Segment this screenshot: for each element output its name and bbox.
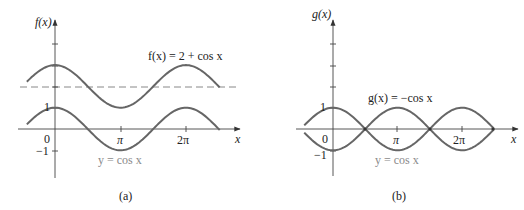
y-axis-label-a: f(x) xyxy=(35,15,52,29)
curve-label-cos-b: y = cos x xyxy=(375,153,419,167)
curve-f-2-plus-cos xyxy=(27,65,220,108)
tick-label-2pi-a: 2π xyxy=(177,133,189,147)
tick-label-neg1-a: −1 xyxy=(36,144,49,158)
figure-canvas: f(x) x f(x) = 2 + cos x y = cos x 1 −1 0… xyxy=(0,0,524,210)
x-axis-label-a: x xyxy=(234,132,241,146)
tick-label-pi-b: π xyxy=(393,133,400,147)
tick-label-2pi-b: 2π xyxy=(453,133,465,147)
tick-label-1-a: 1 xyxy=(44,100,50,114)
panel-a: f(x) x f(x) = 2 + cos x y = cos x 1 −1 0… xyxy=(18,15,241,203)
panel-b: g(x) x g(x) = −cos x y = cos x 1 −1 0 π … xyxy=(296,7,518,203)
tick-label-neg1-b: −1 xyxy=(314,148,327,162)
tick-label-0-b: 0 xyxy=(322,132,328,146)
curve-label-f: f(x) = 2 + cos x xyxy=(148,49,223,63)
caption-b: (b) xyxy=(392,189,406,203)
curve-label-g: g(x) = −cos x xyxy=(368,91,433,105)
tick-label-0-a: 0 xyxy=(44,132,50,146)
tick-label-1-b: 1 xyxy=(320,100,326,114)
y-axis-label-b: g(x) xyxy=(312,7,331,21)
caption-a: (a) xyxy=(119,189,132,203)
tick-label-pi-a: π xyxy=(117,133,124,147)
curve-label-cos-a: y = cos x xyxy=(98,153,142,167)
x-axis-label-b: x xyxy=(510,132,517,146)
